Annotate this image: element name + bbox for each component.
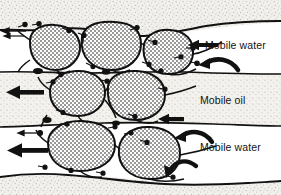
- droplet-5: [108, 71, 165, 120]
- label-mobile-water-bottom: Mobile water: [200, 142, 261, 153]
- emulsion-flow-diagram: Mobile water Mobile oil Mobile water: [0, 0, 281, 195]
- droplet-group-top: [30, 22, 193, 74]
- droplet-3: [144, 30, 194, 74]
- droplet-1: [30, 25, 80, 70]
- droplet-6: [48, 121, 115, 171]
- label-mobile-oil: Mobile oil: [200, 95, 245, 106]
- droplet-4: [50, 71, 105, 116]
- label-mobile-water-top: Mobile water: [205, 40, 266, 51]
